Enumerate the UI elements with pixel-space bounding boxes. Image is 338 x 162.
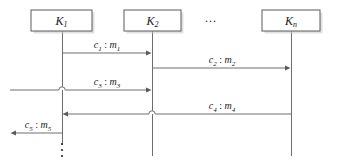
- message-label-m1: c1 : m1: [94, 39, 120, 53]
- message-m4[interactable]: c4 : m4: [63, 100, 292, 117]
- message-m5[interactable]: c5 : m5: [11, 119, 63, 136]
- actor-box-k2[interactable]: K2: [124, 10, 184, 34]
- message-arrowhead-m4: [63, 111, 69, 116]
- message-line-m3: [10, 87, 149, 90]
- actor-boxes-layer: K1K2Kn: [31, 10, 323, 34]
- vertical-ellipsis: [61, 143, 63, 157]
- vertical-ellipsis-dot: [61, 149, 63, 151]
- message-label-m2: c2 : m2: [209, 54, 236, 68]
- horizontal-ellipsis: ...: [205, 11, 217, 25]
- vertical-ellipsis-dot: [61, 143, 63, 145]
- message-arrowhead-m2: [285, 65, 291, 70]
- message-m2[interactable]: c2 : m2: [152, 54, 291, 71]
- sequence-diagram-canvas: c1 : m1c2 : m2c3 : m3c4 : m4c5 : m5 K1K2…: [0, 0, 338, 162]
- message-arrowhead-m5: [11, 130, 17, 135]
- actor-box-kn[interactable]: Kn: [262, 10, 323, 34]
- messages-layer: c1 : m1c2 : m2c3 : m3c4 : m4c5 : m5: [10, 39, 291, 136]
- message-label-m3: c3 : m3: [94, 76, 121, 90]
- message-label-m4: c4 : m4: [209, 100, 236, 114]
- message-arrowhead-m3: [146, 87, 152, 92]
- actor-box-k1[interactable]: K1: [31, 10, 95, 34]
- message-line-m4: [65, 111, 291, 114]
- sequence-diagram-svg: c1 : m1c2 : m2c3 : m3c4 : m4c5 : m5 K1K2…: [0, 0, 338, 162]
- message-arrowhead-m1: [146, 50, 152, 55]
- message-label-m5: c5 : m5: [25, 119, 52, 133]
- vertical-ellipsis-dot: [61, 155, 63, 157]
- message-m1[interactable]: c1 : m1: [62, 39, 152, 56]
- message-m3[interactable]: c3 : m3: [10, 76, 152, 93]
